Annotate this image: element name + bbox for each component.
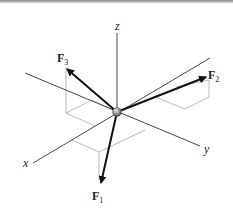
f1-arrow bbox=[101, 112, 117, 183]
force-arrows bbox=[67, 69, 206, 183]
y-axis-label: y bbox=[203, 142, 210, 156]
x-axis-label: x bbox=[22, 156, 29, 170]
f3-arrow bbox=[67, 69, 117, 112]
f2-label: F2 bbox=[208, 68, 219, 84]
z-axis-label: z bbox=[114, 19, 120, 33]
f3-label: F3 bbox=[57, 51, 68, 67]
f1-label: F1 bbox=[92, 189, 103, 205]
f2-arrow bbox=[117, 77, 206, 112]
force-diagram: z x y F3 F2 F1 bbox=[0, 0, 233, 215]
particle bbox=[113, 108, 122, 117]
